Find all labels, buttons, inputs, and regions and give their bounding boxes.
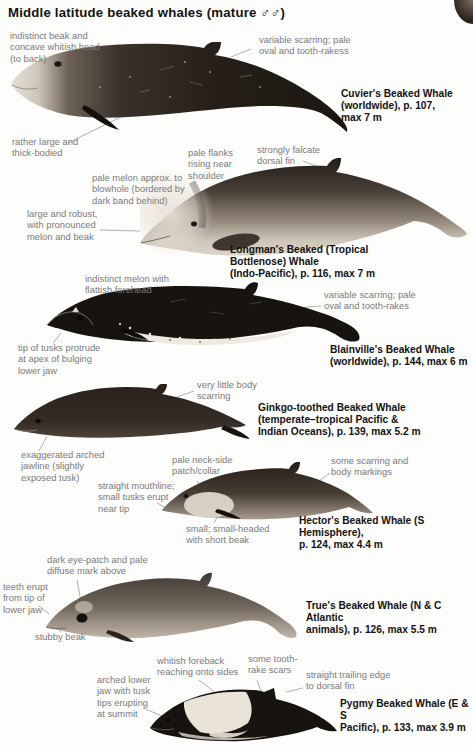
- species-caption-trues: True's Beaked Whale (N & C Atlantic anim…: [306, 600, 473, 637]
- annotation-toothrake-scars: some tooth- rake scars: [248, 653, 298, 676]
- annotation-arched-jawline: exaggerated arched jawline (slightly exp…: [21, 449, 104, 483]
- species-caption-blainvilles: Blainville's Beaked Whale (worldwide), p…: [330, 344, 468, 368]
- annotation-small-headed: small; small-headed with short beak: [186, 523, 269, 546]
- annotation-variable-scarring-2: variable scarring; pale oval and tooth-r…: [324, 289, 416, 312]
- annotation-straight-mouthline: straight mouthline; small tusks erupt ne…: [98, 480, 175, 514]
- annotation-neck-patch: pale neck-side patch/collar: [172, 454, 232, 477]
- whale-illustration-pygmy: [148, 688, 338, 744]
- annotation-stubby-beak: stubby beak: [35, 631, 86, 642]
- annotation-large-robust: large and robust, with pronounced melon …: [27, 208, 97, 242]
- corner-photo-fragment: [454, 0, 473, 24]
- annotation-pale-melon: pale melon approx. to blowhole (bordered…: [92, 172, 185, 206]
- annotation-pale-flanks: pale flanks rising near shoulder: [188, 147, 233, 181]
- page-title: Middle latitude beaked whales (mature ♂♂…: [8, 5, 285, 20]
- species-caption-longmans: Longman's Beaked (Tropical Bottlenose) W…: [230, 244, 375, 281]
- annotation-indistinct-beak: indistinct beak and concave whitish head…: [10, 30, 100, 64]
- annotation-indistinct-melon: indistinct melon with flattish forehead: [85, 273, 169, 296]
- annotation-whitish-foreback: whitish foreback reaching onto sides: [157, 655, 238, 678]
- annotation-falcate-fin: strongly falcate dorsal fin: [257, 144, 320, 167]
- annotation-straight-trailing: straight trailing edge to dorsal fin: [306, 669, 390, 692]
- species-caption-pygmy: Pygmy Beaked Whale (E & S Pacific), p. 1…: [340, 698, 473, 735]
- whale-illustration-blainvilles: [30, 282, 362, 348]
- annotation-teeth-erupt: teeth erupt from tip of lower jaw: [3, 581, 48, 615]
- annotation-body-markings: some scarring and body markings: [331, 455, 408, 478]
- species-caption-cuviers: Cuvier's Beaked Whale (worldwide), p. 10…: [341, 88, 453, 125]
- annotation-arched-lower-jaw: arched lower jaw with tusk tips erupting…: [97, 674, 151, 719]
- species-caption-hectors: Hector's Beaked Whale (S Hemisphere), p.…: [299, 515, 473, 552]
- field-guide-page: Middle latitude beaked whales (mature ♂♂…: [0, 0, 473, 746]
- annotation-eye-patch: dark eye-patch and pale diffuse mark abo…: [47, 554, 148, 577]
- annotation-thick-bodied: rather large and thick-bodied: [12, 136, 78, 159]
- annotation-little-scarring: very little body scarring: [197, 379, 257, 402]
- species-caption-ginkgo: Ginkgo-toothed Beaked Whale (temperate–t…: [258, 402, 421, 439]
- annotation-tusk-tips: tip of tusks protrude at apex of bulging…: [18, 342, 100, 376]
- annotation-variable-scarring-1: variable scarring; pale oval and tooth-r…: [259, 34, 351, 57]
